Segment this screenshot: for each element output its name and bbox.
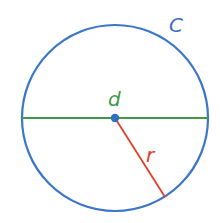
label-circumference: C — [169, 13, 183, 37]
label-diameter: d — [108, 87, 121, 111]
circle-diagram: C d r — [0, 0, 220, 223]
center-point — [111, 114, 119, 122]
background — [0, 0, 220, 223]
